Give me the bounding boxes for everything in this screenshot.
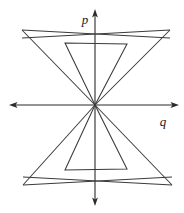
q-axis-label: q	[160, 114, 167, 129]
pq-cone-diagram: p q	[0, 0, 184, 213]
inner-upper-cone	[65, 43, 127, 105]
inner-upper-region	[65, 43, 127, 105]
inner-lower-cone	[65, 105, 127, 170]
outer-upper-region	[22, 30, 170, 105]
outer-upper-left-arm	[22, 30, 95, 105]
figure-container: p q	[0, 0, 184, 213]
outer-lower-region	[23, 105, 172, 185]
outer-upper-right-arm	[95, 30, 170, 105]
p-axis-label: p	[81, 12, 89, 27]
inner-lower-region	[65, 105, 127, 170]
outer-lower-left-arm	[23, 105, 95, 185]
